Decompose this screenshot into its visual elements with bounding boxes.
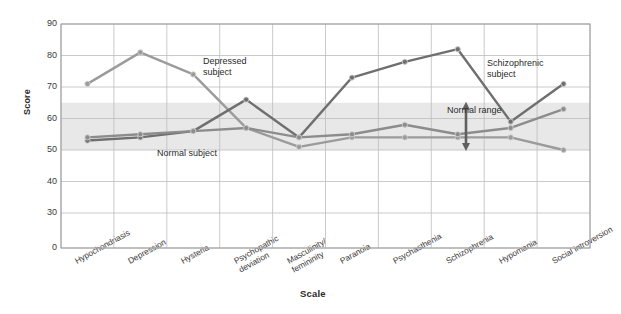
- data-point-depressed-subject-4: [296, 144, 301, 149]
- data-point-schizophrenic-subject-6: [402, 59, 407, 64]
- data-point-normal-subject-4: [296, 135, 301, 140]
- data-point-depressed-subject-0: [85, 81, 90, 86]
- data-point-depressed-subject-1: [138, 50, 143, 55]
- data-point-schizophrenic-subject-9: [561, 81, 566, 86]
- data-point-depressed-subject-9: [561, 147, 566, 152]
- data-point-schizophrenic-subject-8: [508, 119, 513, 124]
- normal-subject-label: Normal subject: [157, 148, 217, 159]
- data-point-normal-subject-8: [508, 125, 513, 130]
- data-point-normal-subject-0: [85, 135, 90, 140]
- data-point-normal-subject-6: [402, 122, 407, 127]
- depressed-subject-label: Depressed subject: [203, 56, 247, 78]
- data-point-depressed-subject-8: [508, 135, 513, 140]
- plot-area: [0, 0, 621, 314]
- data-point-normal-subject-3: [244, 125, 249, 130]
- data-point-normal-subject-5: [349, 132, 354, 137]
- data-point-schizophrenic-subject-3: [244, 97, 249, 102]
- schizophrenic-subject-label: Schizophrenic subject: [487, 58, 544, 80]
- data-point-normal-subject-7: [455, 132, 460, 137]
- data-point-normal-subject-2: [191, 129, 196, 134]
- data-point-normal-subject-1: [138, 132, 143, 137]
- chart-canvas: Score Scale 908070605040300 Hypochondria…: [0, 0, 621, 314]
- data-point-normal-subject-9: [561, 106, 566, 111]
- data-point-schizophrenic-subject-5: [349, 75, 354, 80]
- data-point-schizophrenic-subject-7: [455, 47, 460, 52]
- data-point-depressed-subject-2: [191, 72, 196, 77]
- normal-range-label: Normal range: [447, 105, 502, 116]
- data-point-depressed-subject-6: [402, 135, 407, 140]
